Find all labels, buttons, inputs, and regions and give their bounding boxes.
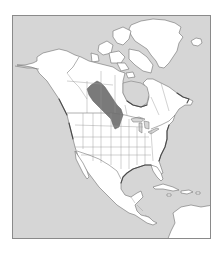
lake-huron bbox=[144, 121, 149, 129]
southampton-island bbox=[126, 72, 135, 78]
arctic-island-4 bbox=[117, 63, 129, 71]
arctic-island-2 bbox=[109, 51, 125, 63]
south-america bbox=[167, 205, 211, 239]
jamaica bbox=[167, 194, 171, 196]
lake-michigan bbox=[139, 123, 142, 133]
range-map bbox=[0, 0, 224, 258]
puerto-rico bbox=[196, 192, 200, 194]
map-canvas bbox=[12, 15, 211, 239]
arctic-island-3 bbox=[91, 53, 99, 62]
ellesmere-island bbox=[113, 27, 131, 45]
iceland bbox=[191, 38, 202, 46]
hispaniola bbox=[181, 190, 193, 194]
map-frame bbox=[12, 15, 211, 239]
cuba bbox=[153, 184, 179, 191]
